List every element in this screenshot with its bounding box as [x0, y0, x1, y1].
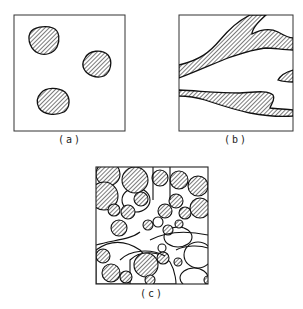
panel-c	[90, 162, 212, 288]
panel-b	[179, 15, 293, 131]
panel-a-label: (a)	[50, 134, 90, 145]
panel-b-label: (b)	[216, 134, 256, 145]
panel-a	[14, 15, 125, 131]
panel-c-label: (c)	[132, 288, 172, 299]
figure-canvas	[0, 0, 303, 309]
